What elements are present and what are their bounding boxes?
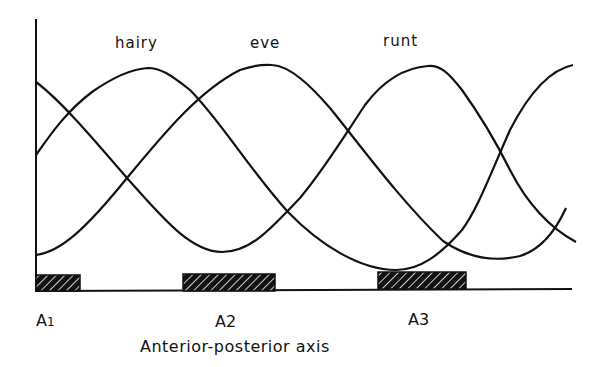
label-a3-main: A (408, 310, 419, 329)
region-bar-a2 (183, 274, 275, 291)
x-axis-title: Anterior-posterior axis (140, 337, 330, 356)
gene-expression-diagram (0, 0, 605, 367)
label-a1-sub: 1 (47, 315, 55, 329)
curve-runt (36, 65, 566, 259)
label-a2-main: A (215, 312, 226, 331)
label-a2: A2 (215, 312, 236, 331)
label-a1-main: A (36, 311, 47, 330)
region-bar-a1 (36, 275, 80, 291)
label-runt: runt (383, 32, 418, 50)
label-a3: A3 (408, 310, 429, 329)
label-a2-sub: 2 (226, 312, 236, 331)
x-axis (36, 289, 572, 291)
label-a1: A1 (36, 311, 55, 330)
region-bar-a3 (378, 272, 466, 289)
label-eve: eve (250, 34, 280, 52)
label-a3-sub: 3 (419, 310, 429, 329)
label-hairy: hairy (115, 34, 158, 52)
curve-eve (36, 66, 576, 252)
